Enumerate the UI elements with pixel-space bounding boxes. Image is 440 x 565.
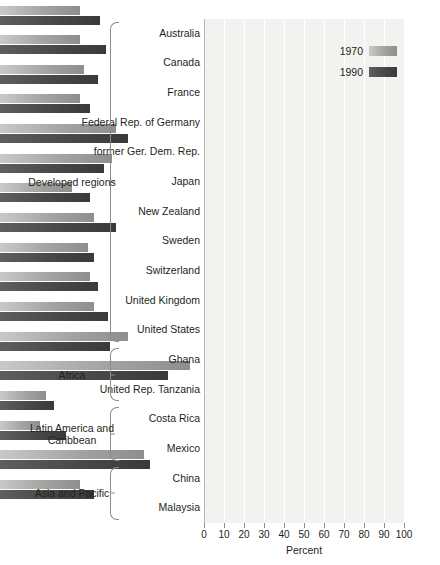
bar-1970-australia (0, 6, 80, 15)
x-tick-label-80: 80 (358, 529, 369, 540)
region-label-africa: Africa (24, 369, 120, 382)
x-tick-label-100: 100 (396, 529, 413, 540)
region-label-asia-and-pacific: Asia and Pacific (24, 487, 120, 500)
x-tick (344, 523, 345, 528)
x-tick-label-10: 10 (218, 529, 229, 540)
legend-swatch-1990 (369, 67, 397, 77)
region-groups: Developed regionsAfricaLatin America and… (0, 19, 120, 523)
x-tick (284, 523, 285, 528)
x-tick-label-20: 20 (238, 529, 249, 540)
legend-label-1970: 1970 (331, 45, 363, 57)
x-tick (224, 523, 225, 528)
gridline (264, 19, 265, 523)
x-tick (204, 523, 205, 528)
gridline (304, 19, 305, 523)
x-tick-label-0: 0 (201, 529, 207, 540)
legend: 1970 1990 (331, 44, 397, 86)
y-axis-baseline (204, 19, 205, 523)
chart-container: AustraliaCanadaFranceFederal Rep. of Ger… (0, 0, 440, 565)
x-tick-label-40: 40 (278, 529, 289, 540)
gridline (404, 19, 405, 523)
legend-item-1970: 1970 (331, 44, 397, 58)
x-axis-ticks (204, 523, 404, 528)
region-group-latin-america-and-caribbean: Latin America and Caribbean (0, 407, 120, 460)
x-tick-label-70: 70 (338, 529, 349, 540)
gridline (364, 19, 365, 523)
legend-swatch-1970 (369, 46, 397, 56)
x-tick (324, 523, 325, 528)
x-tick (244, 523, 245, 528)
x-tick (404, 523, 405, 528)
legend-item-1990: 1990 (331, 65, 397, 79)
region-label-developed-regions: Developed regions (24, 176, 120, 189)
gridline (244, 19, 245, 523)
gridline (324, 19, 325, 523)
x-tick (304, 523, 305, 528)
x-tick-label-90: 90 (378, 529, 389, 540)
gridlines (204, 19, 404, 523)
gridline (344, 19, 345, 523)
region-group-developed-regions: Developed regions (0, 22, 120, 342)
region-label-latin-america-and-caribbean: Latin America and Caribbean (24, 422, 120, 447)
x-tick (364, 523, 365, 528)
plot-area (204, 19, 404, 523)
x-axis-tick-labels: 0102030405060708090100 (204, 529, 404, 543)
x-axis-title: Percent (204, 544, 404, 556)
legend-label-1990: 1990 (331, 66, 363, 78)
gridline (284, 19, 285, 523)
x-tick-label-30: 30 (258, 529, 269, 540)
gridline (384, 19, 385, 523)
x-tick-label-60: 60 (318, 529, 329, 540)
gridline (224, 19, 225, 523)
x-tick-label-50: 50 (298, 529, 309, 540)
region-group-asia-and-pacific: Asia and Pacific (0, 467, 120, 520)
x-tick (264, 523, 265, 528)
region-group-africa: Africa (0, 348, 120, 401)
x-tick (384, 523, 385, 528)
